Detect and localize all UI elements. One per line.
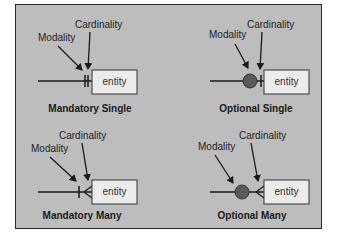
- entity-label: entity: [275, 186, 299, 197]
- cardinality-label: Cardinality: [75, 19, 122, 30]
- cardinality-label: Cardinality: [247, 19, 294, 30]
- cardinality-label: Cardinality: [59, 130, 106, 141]
- panel-optional-single: Cardinality Modality entity Optional Sin…: [209, 19, 309, 114]
- panel-mandatory-single: Cardinality Modality entity Mandatory Si…: [38, 19, 137, 114]
- panel-caption: Optional Many: [218, 210, 287, 221]
- er-notation-diagram: Cardinality Modality entity Mandatory Si…: [0, 0, 339, 243]
- cardinality-arrow: [251, 143, 258, 181]
- entity-label: entity: [103, 76, 127, 87]
- modality-arrow: [58, 46, 82, 70]
- cardinality-label: Cardinality: [239, 130, 286, 141]
- panel-caption: Mandatory Single: [48, 103, 132, 114]
- modality-label: Modality: [198, 141, 235, 152]
- cardinality-arrow: [260, 32, 262, 69]
- modality-arrow: [50, 157, 76, 181]
- modality-arrow: [215, 155, 233, 183]
- optional-circle-icon: [243, 74, 257, 88]
- entity-label: entity: [103, 186, 127, 197]
- entity-label: entity: [275, 76, 299, 87]
- panel-optional-many: Cardinality Modality entity Optional Man…: [198, 130, 309, 221]
- modality-label: Modality: [209, 29, 246, 40]
- panel-mandatory-many: Cardinality Modality entity Mandatory Ma…: [31, 130, 137, 221]
- panel-caption: Mandatory Many: [43, 210, 122, 221]
- cardinality-arrow: [88, 32, 90, 69]
- panel-caption: Optional Single: [219, 103, 293, 114]
- optional-circle-icon: [235, 185, 249, 199]
- cardinality-arrow: [82, 143, 88, 180]
- modality-label: Modality: [38, 32, 75, 43]
- modality-arrow: [235, 44, 248, 68]
- modality-label: Modality: [31, 143, 68, 154]
